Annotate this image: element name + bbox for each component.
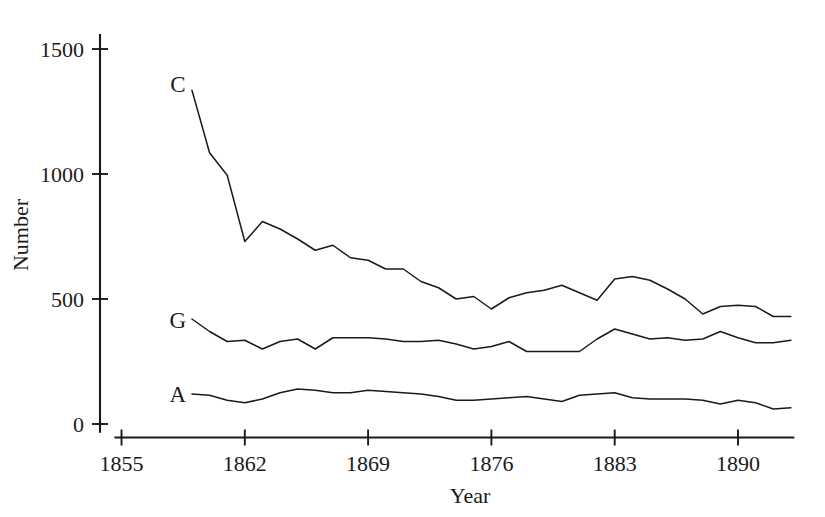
y-tick-label: 0 [73,412,84,437]
y-tick-label: 1500 [40,37,84,62]
x-axis-title: Year [450,483,491,508]
y-tick-label: 1000 [40,162,84,187]
x-tick-label: 1883 [593,451,637,476]
x-tick-label: 1862 [223,451,267,476]
y-tick-label: 500 [51,287,84,312]
tick-labels-group: 050010001500185518621869187618831890 [40,37,760,476]
x-tick-label: 1869 [346,451,390,476]
chart-canvas: 050010001500185518621869187618831890 CGA… [0,0,825,517]
series-line-G [192,319,791,352]
line-chart-figure: 050010001500185518621869187618831890 CGA… [0,0,825,517]
series-label-A: A [170,382,187,407]
tick-marks-group [92,49,738,446]
series-labels-group: CGA [170,72,187,407]
axes-group [100,34,794,438]
x-tick-label: 1876 [469,451,513,476]
x-tick-label: 1855 [100,451,144,476]
series-lines-group [192,90,791,409]
series-line-C [192,90,791,316]
series-label-C: C [170,72,185,97]
series-line-A [192,389,791,409]
y-axis-title: Number [8,198,33,271]
x-tick-label: 1890 [716,451,760,476]
series-label-G: G [170,308,187,333]
